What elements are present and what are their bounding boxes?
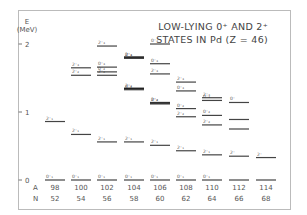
title-line-1: LOW-LYING 0⁺ AND 2⁺ (158, 21, 268, 32)
column-labels: AN98521005410256104581066010862110641126… (33, 184, 273, 203)
mass-number: 102 (100, 184, 113, 192)
row-label-N: N (33, 195, 38, 203)
level-scheme-chart: E(MeV)012 LOW-LYING 0⁺ AND 2⁺STATES IN P… (0, 0, 307, 215)
neutron-number: 68 (262, 195, 271, 203)
level-label: 0⁺₂ (203, 109, 210, 114)
neutron-number: 54 (77, 195, 86, 203)
column-A104: 0⁺₁2⁺₁2⁺₂0⁺₂2⁺₃0⁺₃ (124, 52, 144, 180)
column-A106: 0⁺₁2⁺₁2⁺₂0⁺₂2⁺₃0⁺₃0⁺₄ (150, 38, 170, 180)
level-label: 0⁺ (230, 96, 236, 101)
mass-number: 114 (259, 184, 273, 192)
level-label: 2⁺₃ (203, 92, 210, 97)
title-line-2: STATES IN Pd (Z = 46) (156, 34, 268, 45)
level-label: 2⁺₁ (46, 116, 53, 121)
mass-number: 104 (127, 184, 141, 192)
mass-number: 108 (179, 184, 192, 192)
level-label: 0⁺₁ (98, 174, 105, 179)
column-A102: 0⁺₁2⁺₁2⁺₂0⁺₂0⁺₃2⁺₃ (97, 40, 117, 180)
column-A114: 2⁺ (256, 152, 276, 180)
column-A98: 0⁺₁2⁺₁ (45, 116, 65, 180)
mass-number: 112 (232, 184, 245, 192)
neutron-number: 60 (156, 195, 165, 203)
mass-number: 100 (74, 184, 87, 192)
column-A100: 0⁺₁2⁺₁2⁺₂2⁺₃ (71, 62, 91, 180)
neutron-number: 56 (103, 195, 112, 203)
y-tick-label: 2 (25, 41, 29, 49)
chart-title: LOW-LYING 0⁺ AND 2⁺STATES IN Pd (Z = 46) (156, 21, 268, 45)
neutron-number: 58 (130, 195, 139, 203)
level-label: 0⁺₃ (125, 52, 132, 57)
y-tick-label: 1 (25, 109, 29, 117)
row-label-A: A (33, 184, 38, 192)
level-label: 2⁺ (257, 152, 263, 157)
column-A108: 0⁺₁2⁺₁2⁺₂0⁺₂0⁺₃2⁺₃ (176, 76, 196, 180)
level-label: 2⁺₁ (177, 145, 184, 150)
y-axis-label: E (25, 18, 29, 26)
level-label: 0⁺₂ (125, 84, 132, 89)
level-label: 0⁺₁ (125, 174, 132, 179)
level-label: 2⁺₁ (72, 128, 79, 133)
level-label: 0⁺₂ (151, 97, 158, 102)
level-label: 0⁺₂ (177, 103, 184, 108)
neutron-number: 62 (182, 195, 191, 203)
level-label: 2⁺₃ (72, 62, 79, 67)
level-label: 2⁺₁ (203, 149, 210, 154)
mass-number: 106 (153, 184, 167, 192)
level-label: 2⁺₃ (151, 68, 158, 73)
level-label: 2⁺₂ (72, 69, 79, 74)
y-axis: E(MeV)012 (17, 18, 38, 185)
neutron-number: 64 (208, 195, 217, 203)
level-label: 0⁺₁ (72, 174, 79, 179)
y-tick-label: 0 (25, 177, 29, 185)
level-label: 0⁺₃ (151, 58, 158, 63)
column-A112: 2⁺0⁺ (229, 96, 249, 180)
level-label: 2⁺₂ (177, 111, 184, 116)
level-label: 2⁺₃ (177, 76, 184, 81)
y-axis-unit: (MeV) (17, 26, 38, 34)
mass-number: 98 (51, 184, 60, 192)
energy-levels: 0⁺₁2⁺₁0⁺₁2⁺₁2⁺₂2⁺₃0⁺₁2⁺₁2⁺₂0⁺₂0⁺₃2⁺₃0⁺₁2… (45, 38, 276, 180)
level-label: 0⁺₁ (203, 174, 210, 179)
mass-number: 110 (205, 184, 218, 192)
level-label: 2⁺₃ (98, 40, 105, 45)
level-label: 2⁺₁ (151, 139, 158, 144)
level-label: 0⁺₃ (177, 85, 184, 90)
level-label: 0⁺₁ (151, 174, 158, 179)
level-label: 2⁺₂ (203, 119, 210, 124)
column-A110: 0⁺₁2⁺₁2⁺₂0⁺₂0⁺₃2⁺₃ (202, 92, 222, 180)
level-label: 0⁺₃ (98, 61, 105, 66)
neutron-number: 66 (235, 195, 244, 203)
level-label: 2⁺ (230, 150, 236, 155)
level-label: 0⁺₁ (46, 174, 53, 179)
neutron-number: 52 (51, 195, 60, 203)
level-label: 2⁺₁ (125, 136, 132, 141)
level-label: 0⁺₄ (151, 38, 158, 43)
level-label: 0⁺₁ (177, 174, 184, 179)
level-label: 2⁺₁ (98, 136, 105, 141)
